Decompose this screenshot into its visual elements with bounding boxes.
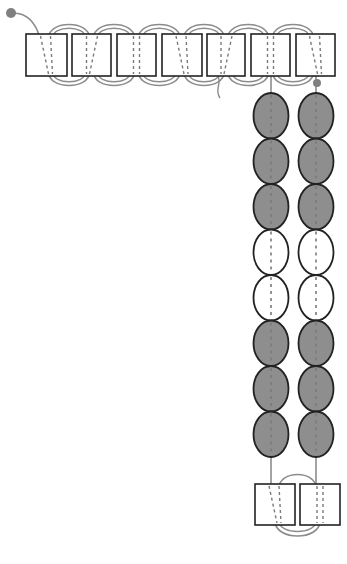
beading-diagram <box>0 0 347 564</box>
pattern-diagram-canvas <box>0 0 347 564</box>
right-column <box>299 93 334 457</box>
cube-bead <box>251 34 290 76</box>
cube-bead <box>207 34 245 76</box>
bottom-row-beads <box>255 484 340 525</box>
cube-bead <box>296 34 335 76</box>
cube-bead-outline <box>207 34 245 76</box>
cube-bead-outline <box>300 484 340 525</box>
top-row-beads <box>26 34 335 76</box>
end-knot <box>313 79 321 87</box>
cube-bead <box>26 34 67 76</box>
left-column <box>254 93 289 457</box>
cube-bead <box>162 34 202 76</box>
cube-bead-outline <box>72 34 111 76</box>
cube-bead <box>72 34 111 76</box>
cube-bead-outline <box>117 34 156 76</box>
thread-hanging-tail <box>218 76 220 98</box>
cube-bead-outline <box>255 484 295 525</box>
cube-bead-outline <box>296 34 335 76</box>
cube-bead-outline <box>162 34 202 76</box>
bead-columns <box>254 93 334 457</box>
cube-bead-outline <box>26 34 67 76</box>
cube-bead-outline <box>251 34 290 76</box>
start-knot <box>6 8 16 18</box>
cube-bead <box>300 484 340 525</box>
cube-bead <box>255 484 295 525</box>
cube-bead <box>117 34 156 76</box>
